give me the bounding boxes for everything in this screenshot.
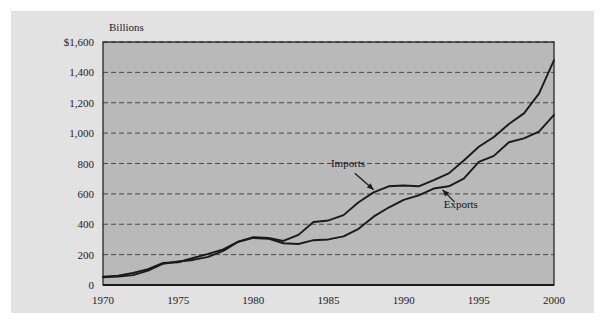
line-chart: 02004006008001,0001,2001,400$1,600Billio… <box>11 11 594 313</box>
x-axis-tick-label: 2000 <box>543 294 566 306</box>
y-axis-unit-label: Billions <box>109 21 144 33</box>
x-axis-tick-label: 1975 <box>167 294 190 306</box>
chart-render-root: 02004006008001,0001,2001,400$1,600Billio… <box>64 21 566 306</box>
y-axis-tick-label: 0 <box>89 279 95 291</box>
x-axis-tick-label: 1970 <box>92 294 115 306</box>
x-axis-tick-label: 1980 <box>242 294 265 306</box>
y-axis-tick-label: 200 <box>78 249 95 261</box>
y-axis-tick-label: 600 <box>78 188 95 200</box>
annotation-label-imports: Imports <box>331 157 365 169</box>
y-axis-tick-label: 800 <box>78 158 95 170</box>
y-axis-tick-label: 400 <box>78 218 95 230</box>
y-axis-tick-label: 1,000 <box>69 127 94 139</box>
y-axis-tick-label: $1,600 <box>64 36 95 48</box>
y-axis-tick-label: 1,200 <box>69 97 94 109</box>
x-axis-tick-label: 1990 <box>393 294 416 306</box>
annotation-label-exports: Exports <box>444 198 478 210</box>
x-axis-tick-label: 1995 <box>468 294 491 306</box>
y-axis-tick-label: 1,400 <box>69 66 94 78</box>
figure-card: 02004006008001,0001,2001,400$1,600Billio… <box>11 11 594 313</box>
x-axis-tick-label: 1985 <box>318 294 341 306</box>
